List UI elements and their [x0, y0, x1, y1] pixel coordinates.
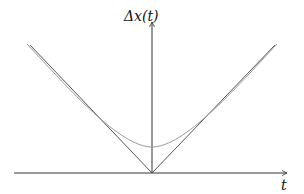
y-axis-label: Δx(t) — [123, 8, 159, 24]
light-cone-right — [152, 45, 275, 173]
diagram-canvas: Δx(t) t — [0, 0, 304, 194]
light-cone-left — [30, 45, 152, 173]
x-axis-label: t — [281, 177, 287, 193]
